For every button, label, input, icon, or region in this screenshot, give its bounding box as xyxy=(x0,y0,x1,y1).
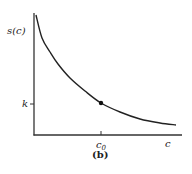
chart: s(c) k c0 c (b) xyxy=(0,0,192,174)
curve-s-of-c xyxy=(36,15,176,125)
caption: (b) xyxy=(92,149,108,160)
x-axis-label: c xyxy=(165,138,171,149)
point-c0-k xyxy=(99,101,103,105)
y-axis-label: s(c) xyxy=(7,25,26,36)
k-label: k xyxy=(22,98,28,109)
